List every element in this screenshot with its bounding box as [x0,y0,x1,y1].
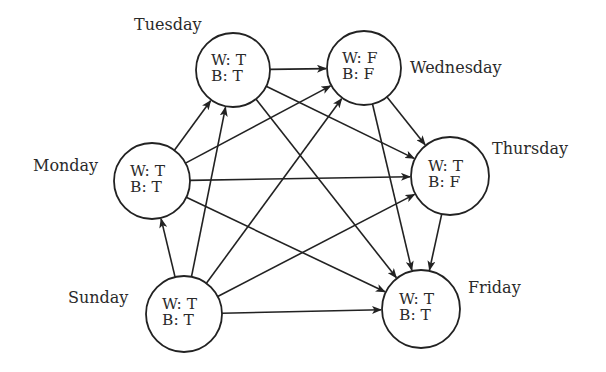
edge-monday-to-thursday [190,177,410,181]
label-wednesday: Wednesday [410,60,502,76]
edge-tuesday-to-friday [256,99,396,278]
node-friday-b: B: T [399,308,434,324]
node-tuesday-values: W: T B: T [211,53,246,84]
label-tuesday: Tuesday [134,17,201,33]
node-sunday-b: B: T [162,313,197,329]
node-tuesday-b: B: T [211,69,246,85]
node-monday-values: W: T B: T [130,164,165,195]
dag-diagram: W: T B: T W: T B: T W: T B: T W: F B: F … [0,0,606,372]
graph-svg [0,0,606,372]
edge-sunday-to-wednesday [206,99,341,284]
label-monday: Monday [33,158,98,174]
label-sunday: Sunday [68,290,128,306]
edge-sunday-to-friday [222,310,381,313]
edge-wednesday-to-thursday [387,97,425,145]
label-friday: Friday [468,280,521,296]
node-monday-b: B: T [130,180,165,196]
node-thursday-b: B: F [428,175,463,191]
edge-sunday-to-thursday [218,194,415,296]
node-wednesday-b: B: F [342,67,378,83]
edge-sunday-to-monday [161,219,175,277]
label-thursday: Thursday [492,141,568,157]
edge-wednesday-to-friday [373,104,412,270]
edge-monday-to-friday [186,197,385,291]
node-sunday-values: W: T B: T [162,297,197,328]
node-wednesday-values: W: F B: F [342,51,378,82]
node-friday-values: W: T B: T [399,292,434,323]
node-thursday-values: W: T B: F [428,159,463,190]
edge-monday-to-tuesday [174,101,210,151]
edge-tuesday-to-wednesday [270,69,326,70]
edge-thursday-to-friday [430,214,442,270]
edge-sunday-to-tuesday [192,107,226,276]
